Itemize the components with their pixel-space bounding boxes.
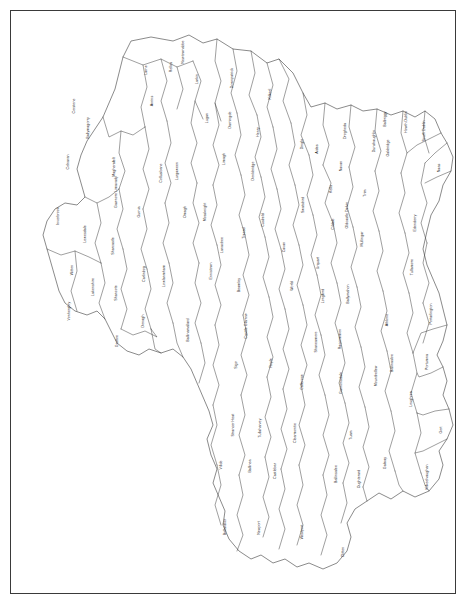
map-frame: InverbrookCorstoneColnaranLewesdaleWitto… — [10, 10, 456, 594]
landmass-outline — [43, 35, 453, 569]
map-page: InverbrookCorstoneColnaranLewesdaleWitto… — [0, 0, 468, 606]
region-boundaries-svg — [11, 11, 457, 595]
